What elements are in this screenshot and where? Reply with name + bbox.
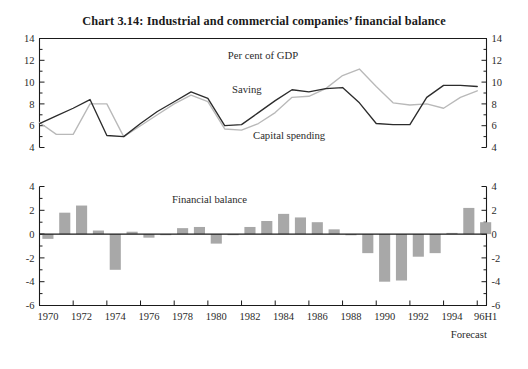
xtick-1982: 1982 <box>239 311 260 322</box>
xtick-1984: 1984 <box>273 311 295 322</box>
chart-figure: 468101214 468101214 Per cent of GDP Savi… <box>0 0 528 369</box>
bottom-ytick-right--6: -6 <box>492 300 501 311</box>
top-panel-ylabels-left: 468101214 <box>24 33 35 153</box>
x-axis-labels: 1970197219741976197819801982198419861988… <box>37 311 497 322</box>
financial-balance-label: Financial balance <box>172 193 247 205</box>
bar-1990 <box>379 234 390 282</box>
saving-label: Saving <box>232 83 262 95</box>
top-ytick-4: 4 <box>29 142 35 153</box>
xtick-1988: 1988 <box>340 311 361 322</box>
top-ytick-right-6: 6 <box>492 120 497 131</box>
bottom-ytick-right-4: 4 <box>492 181 498 192</box>
bar-1972 <box>76 206 87 235</box>
xtick-1976: 1976 <box>138 311 159 322</box>
top-ytick-right-4: 4 <box>492 142 498 153</box>
bottom-ytick--6: -6 <box>26 300 35 311</box>
bar-1985 <box>295 217 306 234</box>
bottom-ytick--2: -2 <box>26 253 35 264</box>
bottom-ytick-right-0: 0 <box>492 229 497 240</box>
bottom-ytick-2: 2 <box>29 205 34 216</box>
bar-1983 <box>261 221 272 234</box>
bar-1992 <box>413 234 424 257</box>
top-panel-ylabels-right: 468101214 <box>492 33 503 153</box>
xtick-1990: 1990 <box>374 311 395 322</box>
bar-1984 <box>278 214 289 234</box>
bar-1979 <box>194 227 205 234</box>
bar-1995 <box>463 208 474 234</box>
percent-of-gdp-label: Per cent of GDP <box>228 49 298 61</box>
bar-1989 <box>362 234 373 253</box>
bar-1993 <box>430 234 441 253</box>
bar-1974 <box>110 234 121 270</box>
top-ytick-right-12: 12 <box>492 55 503 66</box>
xtick-96H1: 96H1 <box>474 311 497 322</box>
xtick-1986: 1986 <box>307 311 328 322</box>
bar-1971 <box>59 213 70 234</box>
bar-1978 <box>177 228 188 234</box>
x-axis-ticks <box>40 301 478 306</box>
xtick-1972: 1972 <box>71 311 92 322</box>
bottom-panel-ylabels-right: 420-2-4-6 <box>492 181 501 311</box>
bottom-ytick-4: 4 <box>29 181 35 192</box>
bar-1982 <box>244 227 255 234</box>
bottom-ytick--4: -4 <box>26 276 35 287</box>
financial-balance-bars <box>42 206 491 282</box>
top-ytick-right-8: 8 <box>492 99 497 110</box>
bar-1980 <box>211 234 222 244</box>
xtick-1994: 1994 <box>441 311 463 322</box>
top-ytick-8: 8 <box>29 99 34 110</box>
bar-1991 <box>396 234 407 280</box>
capital-spending-label: Capital spending <box>253 129 326 141</box>
bar-1970 <box>42 234 53 239</box>
top-ytick-right-10: 10 <box>492 77 503 88</box>
bar-1986 <box>312 222 323 234</box>
top-ytick-10: 10 <box>24 77 35 88</box>
top-ytick-6: 6 <box>29 120 34 131</box>
xtick-1970: 1970 <box>37 311 58 322</box>
bar-1996 <box>480 222 491 234</box>
bar-1987 <box>329 229 340 234</box>
xtick-1974: 1974 <box>105 311 127 322</box>
bottom-panel-ylabels-left: 420-2-4-6 <box>26 181 36 311</box>
xtick-1978: 1978 <box>172 311 193 322</box>
forecast-label: Forecast <box>451 328 487 340</box>
top-ytick-12: 12 <box>24 55 35 66</box>
bottom-ytick-right-2: 2 <box>492 205 497 216</box>
bottom-ytick-0: 0 <box>29 229 34 240</box>
capital-spending-line <box>40 69 478 137</box>
bottom-ytick-right--4: -4 <box>492 276 501 287</box>
xtick-1992: 1992 <box>408 311 429 322</box>
xtick-1980: 1980 <box>206 311 227 322</box>
top-ytick-right-14: 14 <box>492 33 503 44</box>
bottom-ytick-right--2: -2 <box>492 253 501 264</box>
top-ytick-14: 14 <box>24 33 35 44</box>
